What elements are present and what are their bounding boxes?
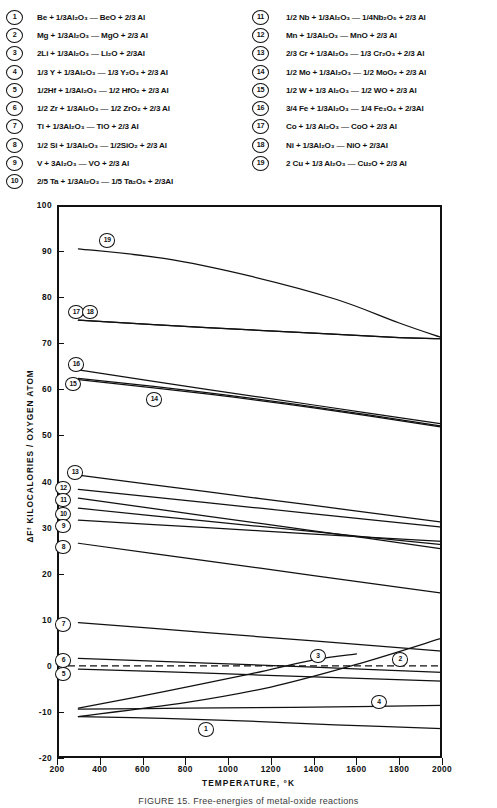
legend-equation-3: 2Li + 1/3Al₂O₃ — Li₂O + 2/3Al [37,49,145,58]
legend-row: 111/2 Nb + 1/3Al₂O₃ — 1/4Nb₂O₅ + 2/3 Al [252,8,497,26]
legend-marker-15: 15 [252,83,269,98]
x-axis-label: TEMPERATURE, °K [0,778,497,788]
x-tick-mark [185,758,186,765]
legend-equation-1: Be + 1/3Al₂O₃ — BeO + 2/3 Al [37,13,145,22]
legend-column-right: 111/2 Nb + 1/3Al₂O₃ — 1/4Nb₂O₅ + 2/3 Al1… [252,8,497,173]
x-tick-mark [399,758,400,765]
legend-equation-8: 1/2 Si + 1/3Al₂O₃ — 1/2SiO₂ + 2/3 Al [37,141,167,150]
x-tick-label: 1000 [208,764,248,774]
x-tick-mark [356,758,357,765]
x-tick-label: 600 [123,764,163,774]
legend-row: 81/2 Si + 1/3Al₂O₃ — 1/2SiO₂ + 2/3 Al [6,136,246,154]
legend-row: 12Mn + 1/3Al₂O₃ — MnO + 2/3 Al [252,26,497,44]
legend-marker-17: 17 [252,119,269,134]
x-tick-mark [442,758,443,765]
legend-marker-19: 19 [252,156,269,171]
legend-equation-10: 2/5 Ta + 1/3Al₂O₃ — 1/5 Ta₂O₅ + 2/3Al [37,177,173,186]
legend-equation-4: 1/3 Y + 1/3Al₂O₃ — 1/3 Y₂O₃ + 2/3 Al [37,68,168,77]
legend-equation-15: 1/2 W + 1/3 Al₂O₃ — 1/2 WO + 2/3 Al [286,86,417,95]
legend-marker-2: 2 [6,28,23,43]
curve-5 [78,669,442,681]
x-tick-label: 1200 [251,764,291,774]
plot-curves [57,205,442,758]
figure-caption: FIGURE 15. Free-energies of metal-oxide … [0,796,497,806]
legend-row: 132/3 Cr + 1/3Al₂O₃ — 1/3 Cr₂O₃ + 2/3 Al [252,45,497,63]
legend-equation-13: 2/3 Cr + 1/3Al₂O₃ — 1/3 Cr₂O₃ + 2/3 Al [286,49,424,58]
curve-16 [78,370,442,424]
x-tick-label: 800 [165,764,205,774]
y-tick-label: 10 [22,615,52,625]
curve-10 [78,508,442,544]
legend-equation-7: Ti + 1/3Al₂O₃ — TiO + 2/3 Al [37,122,139,131]
x-tick-mark [57,758,58,765]
legend-marker-11: 11 [252,10,269,25]
legend-marker-3: 3 [6,46,23,61]
legend-marker-12: 12 [252,28,269,43]
x-tick-label: 1600 [336,764,376,774]
y-tick-label: 20 [22,569,52,579]
legend-marker-18: 18 [252,138,269,153]
legend-row: 141/2 Mo + 1/3Al₂O₃ — 1/2 MoO₂ + 2/3 Al [252,63,497,81]
legend-marker-1: 1 [6,10,23,25]
y-tick-mark [57,758,64,759]
curve-1 [78,717,442,729]
legend-row: 151/2 W + 1/3 Al₂O₃ — 1/2 WO + 2/3 Al [252,81,497,99]
legend-row: 61/2 Zr + 1/3Al₂O₃ — 1/2 ZrO₂ + 2/3 Al [6,99,246,117]
legend-equation-6: 1/2 Zr + 1/3Al₂O₃ — 1/2 ZrO₂ + 2/3 Al [37,104,170,113]
curve-2 [78,638,442,716]
y-axis-label: ΔFᶠ KILOCALORIES / OXYGEN ATOM [25,366,35,546]
legend-marker-14: 14 [252,65,269,80]
curve-19 [78,249,442,338]
legend-marker-5: 5 [6,83,23,98]
curve-marker-3: 3 [310,649,326,664]
curve-marker-1: 1 [198,722,214,737]
y-tick-mark [57,297,64,298]
legend-marker-7: 7 [6,119,23,134]
legend-equation-9: V + 3Al₂O₃ — VO + 2/3 Al [37,159,129,168]
curve-7 [78,623,442,652]
y-tick-mark [57,343,64,344]
legend-row: 102/5 Ta + 1/3Al₂O₃ — 1/5 Ta₂O₅ + 2/3Al [6,173,246,191]
x-tick-label: 400 [80,764,120,774]
legend-row: 51/2Hf + 1/3Al₂O₃ — 1/2 HfO₂ + 2/3 Al [6,81,246,99]
curve-marker-7: 7 [55,617,71,632]
curve-13 [78,475,442,522]
curve-marker-2: 2 [392,652,408,667]
legend-equation-5: 1/2Hf + 1/3Al₂O₃ — 1/2 HfO₂ + 2/3 Al [37,86,169,95]
legend-row: 7Ti + 1/3Al₂O₃ — TiO + 2/3 Al [6,118,246,136]
x-tick-mark [228,758,229,765]
legend-marker-9: 9 [6,156,23,171]
legend-equation-2: Mg + 1/3Al₂O₃ — MgO + 2/3 Al [37,31,148,40]
legend-row: 18Ni + 1/3Al₂O₃ — NiO + 2/3Al [252,136,497,154]
legend-marker-10: 10 [6,174,23,189]
curve-marker-4: 4 [371,695,387,710]
x-tick-mark [100,758,101,765]
legend-row: 1Be + 1/3Al₂O₃ — BeO + 2/3 Al [6,8,246,26]
y-tick-mark [57,251,64,252]
y-tick-label: 90 [22,246,52,256]
legend-equation-14: 1/2 Mo + 1/3Al₂O₃ — 1/2 MoO₂ + 2/3 Al [286,68,426,77]
y-tick-label: 100 [22,200,52,210]
y-tick-mark [57,389,64,390]
legend-row: 163/4 Fe + 1/3Al₂O₃ — 1/4 Fe₃O₄ + 2/3Al [252,99,497,117]
legend-equation-17: Co + 1/3 Al₂O₃ — CoO + 2/3 Al [286,122,397,131]
x-axis-ticks: 200400600800100012001400160018002000 [0,764,497,778]
y-tick-label: -10 [22,707,52,717]
legend-equation-19: 2 Cu + 1/3 Al₂O₃ — Cu₂O + 2/3 Al [286,159,407,168]
curve-12 [78,489,442,527]
x-tick-mark [143,758,144,765]
curve-marker-19: 19 [99,233,115,248]
legend-row: 192 Cu + 1/3 Al₂O₃ — Cu₂O + 2/3 Al [252,154,497,172]
y-tick-mark [57,435,64,436]
y-tick-label: -20 [22,753,52,763]
curve-marker-14: 14 [146,392,162,407]
legend-equation-18: Ni + 1/3Al₂O₃ — NiO + 2/3Al [286,141,388,150]
y-tick-mark [57,712,64,713]
curve-marker-13: 13 [67,465,83,480]
legend-marker-13: 13 [252,46,269,61]
curve-marker-6: 6 [55,653,71,668]
legend-equation-12: Mn + 1/3Al₂O₃ — MnO + 2/3 Al [286,31,397,40]
curve-marker-15: 15 [65,377,81,392]
curve-15 [78,380,442,427]
y-axis-ticks: -20-100102030405060708090100 [18,205,52,758]
